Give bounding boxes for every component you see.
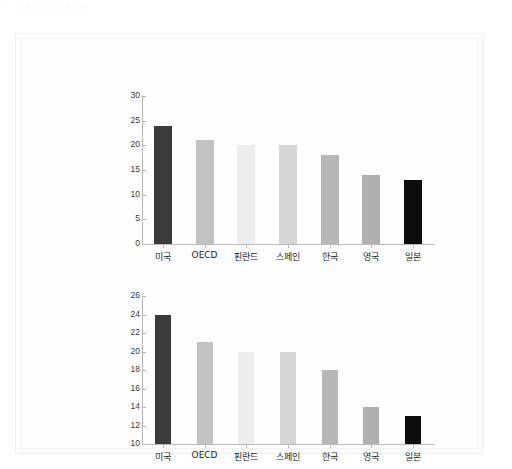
- y-tick-label: 20: [131, 139, 140, 149]
- x-axis-label: 일본: [405, 450, 421, 463]
- y-tick-mark: [142, 96, 146, 97]
- bar: [238, 352, 254, 445]
- y-tick-mark: [142, 145, 146, 146]
- bar: [321, 155, 339, 244]
- bar: [154, 126, 172, 244]
- x-tick-mark: [205, 444, 206, 448]
- y-tick-label: 12: [131, 420, 140, 430]
- y-tick-label: 5: [135, 213, 140, 223]
- x-axis-label: OECD: [192, 250, 218, 260]
- y-tick-mark: [142, 219, 146, 220]
- x-tick-mark: [413, 444, 414, 448]
- bar: [362, 175, 380, 244]
- bar: [322, 370, 338, 444]
- y-tick-label: 20: [131, 346, 140, 356]
- bar: [196, 140, 214, 244]
- x-tick-mark: [330, 444, 331, 448]
- x-tick-mark: [163, 244, 164, 248]
- x-tick-mark: [163, 444, 164, 448]
- x-axis-label: 일본: [405, 250, 421, 263]
- bar: [405, 416, 421, 444]
- bar: [280, 352, 296, 445]
- y-tick-label: 26: [131, 290, 140, 300]
- scan-header-text: ▫ ▫▫▫ ▫▫ ▫▫▫▫ ▫▫▫: [0, 0, 512, 16]
- y-tick-mark: [142, 333, 146, 334]
- bar: [237, 145, 255, 244]
- y-tick-label: 10: [131, 189, 140, 199]
- y-tick-label: 14: [131, 401, 140, 411]
- y-tick-mark: [142, 389, 146, 390]
- x-tick-mark: [288, 444, 289, 448]
- bar: [279, 145, 297, 244]
- y-tick-label: 15: [131, 164, 140, 174]
- y-tick-mark: [142, 170, 146, 171]
- x-axis-label: 한국: [322, 450, 338, 463]
- plot-area-top: 051015202530미국OECD핀란드스페인한국영국일본: [106, 88, 436, 268]
- x-tick-mark: [246, 244, 247, 248]
- x-tick-mark: [246, 444, 247, 448]
- bar-chart-bottom: 101214161820222426미국OECD핀란드스페인한국영국일본: [106, 288, 436, 468]
- x-tick-mark: [371, 444, 372, 448]
- x-axis-label: 미국: [155, 450, 171, 463]
- y-tick-label: 30: [131, 90, 140, 100]
- x-tick-mark: [413, 244, 414, 248]
- y-tick-mark: [142, 407, 146, 408]
- x-axis-label: 스페인: [276, 450, 300, 463]
- y-tick-label: 0: [135, 238, 140, 248]
- y-tick-mark: [142, 426, 146, 427]
- bar: [155, 315, 171, 445]
- plot-area-bottom: 101214161820222426미국OECD핀란드스페인한국영국일본: [106, 288, 436, 468]
- bar: [363, 407, 379, 444]
- y-tick-mark: [142, 296, 146, 297]
- bar-chart-top: 051015202530미국OECD핀란드스페인한국영국일본: [106, 88, 436, 268]
- bar: [197, 342, 213, 444]
- x-axis-label: 미국: [155, 250, 171, 263]
- y-tick-label: 22: [131, 327, 140, 337]
- x-axis-label: 핀란드: [234, 450, 258, 463]
- x-axis-label: 영국: [363, 250, 379, 263]
- y-tick-label: 16: [131, 383, 140, 393]
- y-tick-label: 10: [131, 438, 140, 448]
- x-tick-mark: [288, 244, 289, 248]
- x-axis-label: 핀란드: [234, 250, 258, 263]
- y-tick-mark: [142, 121, 146, 122]
- x-tick-mark: [205, 244, 206, 248]
- x-axis-label: 스페인: [276, 250, 300, 263]
- y-tick-mark: [142, 195, 146, 196]
- y-tick-mark: [142, 315, 146, 316]
- y-tick-mark: [142, 370, 146, 371]
- x-axis-label: 영국: [363, 450, 379, 463]
- bar: [404, 180, 422, 244]
- x-axis-label: 한국: [322, 250, 338, 263]
- x-tick-mark: [330, 244, 331, 248]
- document-frame: 051015202530미국OECD핀란드스페인한국영국일본 101214161…: [15, 33, 483, 454]
- x-axis-label: OECD: [192, 450, 218, 460]
- x-tick-mark: [371, 244, 372, 248]
- y-tick-label: 18: [131, 364, 140, 374]
- y-tick-label: 25: [131, 115, 140, 125]
- y-tick-label: 24: [131, 309, 140, 319]
- y-tick-mark: [142, 352, 146, 353]
